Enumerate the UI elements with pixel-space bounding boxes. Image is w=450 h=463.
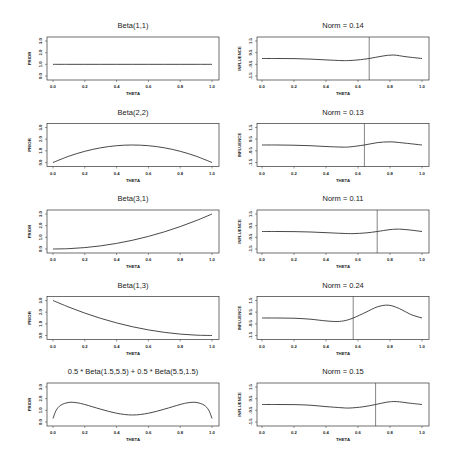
row2-left-panel: Beta(2,2)0.00.20.40.60.81.00.01.02.03.0T… — [27, 108, 219, 183]
y-tick-label: 3.0 — [38, 383, 43, 389]
x-tick-label: 0.0 — [50, 84, 56, 89]
panel-title: Norm = 0.15 — [322, 367, 363, 376]
data-curve — [53, 402, 212, 418]
x-tick-label: 0.4 — [114, 84, 120, 89]
y-tick-label: 1.0 — [38, 147, 43, 153]
panel-title: Norm = 0.24 — [322, 281, 363, 290]
x-tick-label: 0.4 — [323, 344, 329, 349]
x-tick-label: 0.4 — [323, 257, 329, 262]
x-axis-label: THETA — [126, 351, 140, 356]
row1-right-panel: Norm = 0.140.00.20.40.60.81.0-1.5-0.50.5… — [237, 21, 429, 96]
x-tick-label: 0.8 — [177, 171, 183, 176]
x-tick-label: 0.4 — [323, 84, 329, 89]
x-tick-label: 0.2 — [291, 84, 297, 89]
y-tick-label: 1.0 — [38, 407, 43, 413]
x-tick-label: 0.6 — [355, 171, 361, 176]
y-tick-label: 2.0 — [38, 49, 43, 55]
y-axis-label: PRIOR — [27, 397, 32, 412]
x-axis-label: THETA — [126, 91, 140, 96]
x-tick-label: 0.0 — [259, 257, 265, 262]
x-tick-label: 1.0 — [209, 171, 215, 176]
x-tick-label: 0.6 — [145, 257, 151, 262]
x-tick-label: 0.8 — [177, 344, 183, 349]
x-axis-label: THETA — [336, 178, 350, 183]
x-tick-label: 0.4 — [114, 430, 120, 435]
x-tick-label: 0.6 — [145, 430, 151, 435]
y-tick-label: -1.5 — [248, 72, 253, 80]
x-tick-label: 0.8 — [387, 257, 393, 262]
row5-right-panel: Norm = 0.150.00.20.40.60.81.0-1.5-0.50.5… — [237, 367, 429, 442]
plot-frame — [47, 210, 219, 253]
row4-left-panel: Beta(1,3)0.00.20.40.60.81.00.01.02.03.0T… — [27, 281, 219, 356]
data-curve — [53, 301, 212, 336]
x-tick-label: 0.6 — [145, 84, 151, 89]
x-tick-label: 0.0 — [259, 430, 265, 435]
x-tick-label: 0.4 — [323, 171, 329, 176]
x-tick-label: 0.4 — [114, 344, 120, 349]
x-tick-label: 0.2 — [291, 344, 297, 349]
x-tick-label: 0.0 — [259, 171, 265, 176]
y-tick-label: 0.5 — [248, 395, 253, 401]
x-tick-label: 0.2 — [82, 257, 88, 262]
x-axis-label: THETA — [336, 91, 350, 96]
y-tick-label: 0.5 — [248, 49, 253, 55]
x-tick-label: 0.2 — [291, 171, 297, 176]
y-tick-label: -1.5 — [248, 418, 253, 426]
row2-right-panel: Norm = 0.130.00.20.40.60.81.0-1.5-0.50.5… — [237, 108, 429, 183]
x-tick-label: 0.6 — [145, 171, 151, 176]
y-tick-label: 0.0 — [38, 418, 43, 424]
y-tick-label: 0.0 — [38, 72, 43, 78]
y-tick-label: 1.0 — [38, 61, 43, 67]
panel-title: Norm = 0.13 — [322, 108, 363, 117]
x-tick-label: 0.8 — [387, 344, 393, 349]
y-tick-label: 2.0 — [38, 395, 43, 401]
x-tick-label: 0.6 — [145, 344, 151, 349]
x-tick-label: 1.0 — [419, 430, 425, 435]
y-tick-label: -0.5 — [248, 233, 253, 241]
y-tick-label: 3.0 — [38, 124, 43, 130]
y-tick-label: 1.5 — [248, 124, 253, 130]
x-tick-label: 0.2 — [82, 344, 88, 349]
x-tick-label: 0.0 — [50, 171, 56, 176]
y-tick-label: -1.5 — [248, 331, 253, 339]
data-curve — [262, 305, 422, 321]
x-tick-label: 1.0 — [419, 344, 425, 349]
y-tick-label: 3.0 — [38, 297, 43, 303]
y-axis-label: PRIOR — [27, 310, 32, 325]
panel-title: Norm = 0.11 — [323, 194, 364, 203]
y-tick-label: 3.0 — [38, 210, 43, 216]
y-tick-label: 1.5 — [248, 297, 253, 303]
x-axis-label: THETA — [126, 437, 140, 442]
data-curve — [262, 142, 422, 147]
x-tick-label: 0.0 — [50, 257, 56, 262]
x-tick-label: 1.0 — [209, 257, 215, 262]
plot-frame — [47, 37, 219, 80]
y-tick-label: 0.0 — [38, 159, 43, 165]
y-axis-label: INFLUENCE — [237, 392, 242, 417]
y-tick-label: 0.5 — [248, 309, 253, 315]
y-tick-label: 1.5 — [248, 210, 253, 216]
x-tick-label: 0.8 — [387, 430, 393, 435]
y-tick-label: 0.0 — [38, 245, 43, 251]
x-tick-label: 1.0 — [209, 344, 215, 349]
figure: Beta(1,1)0.00.20.40.60.81.00.01.02.03.0T… — [0, 0, 450, 463]
x-tick-label: 0.0 — [50, 344, 56, 349]
panel-title: 0.5 * Beta(1.5,5.5) + 0.5 * Beta(5.5,1.5… — [68, 367, 199, 376]
x-tick-label: 0.4 — [323, 430, 329, 435]
panel-title: Beta(3,1) — [118, 194, 149, 203]
x-tick-label: 0.8 — [387, 171, 393, 176]
x-tick-label: 0.2 — [291, 257, 297, 262]
y-tick-label: 3.0 — [38, 37, 43, 43]
data-curve — [53, 145, 212, 163]
y-tick-label: -1.5 — [248, 158, 253, 166]
x-tick-label: 0.8 — [177, 430, 183, 435]
y-axis-label: PRIOR — [27, 224, 32, 239]
x-tick-label: 1.0 — [209, 430, 215, 435]
plot-frame — [47, 297, 219, 340]
panel-title: Norm = 0.14 — [322, 21, 363, 30]
x-axis-label: THETA — [126, 264, 140, 269]
x-tick-label: 0.0 — [259, 344, 265, 349]
y-tick-label: 0.0 — [38, 332, 43, 338]
panel-title: Beta(1,3) — [118, 281, 149, 290]
panel-title: Beta(1,1) — [118, 21, 149, 30]
